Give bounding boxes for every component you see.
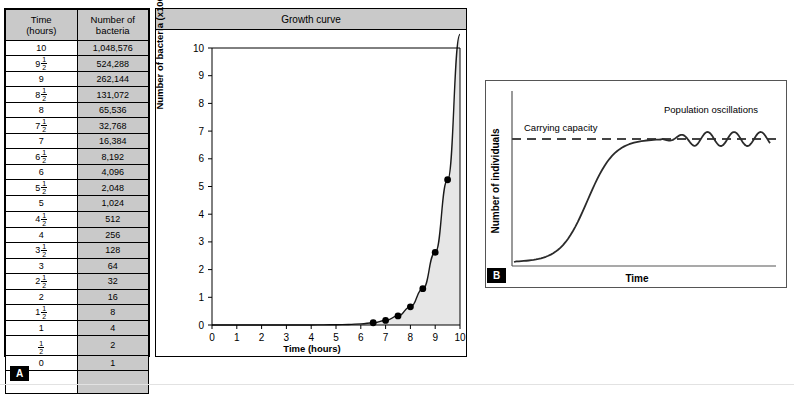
svg-text:2: 2 xyxy=(259,332,265,343)
cell-time: 8 xyxy=(6,103,78,118)
cell-bacteria: 32 xyxy=(77,273,149,289)
table-row: 64,096 xyxy=(6,165,149,180)
cell-bacteria: 262,144 xyxy=(77,72,149,87)
svg-text:1: 1 xyxy=(198,292,204,303)
cell-time: 612 xyxy=(6,149,78,165)
table-row: 412512 xyxy=(6,211,149,227)
cell-time: 3 xyxy=(6,258,78,273)
table-row: 6128,192 xyxy=(6,149,149,165)
cell-bacteria: 1,048,576 xyxy=(77,41,149,56)
cell-bacteria: 128 xyxy=(77,242,149,258)
svg-text:5: 5 xyxy=(198,181,204,192)
svg-text:6: 6 xyxy=(198,153,204,164)
table-row: 71232,768 xyxy=(6,118,149,134)
svg-text:4: 4 xyxy=(198,209,204,220)
table-row: 9262,144 xyxy=(6,72,149,87)
cell-time: 7 xyxy=(6,134,78,149)
cell-bacteria: 64 xyxy=(77,258,149,273)
cell-time: 512 xyxy=(6,180,78,196)
table-row: 5122,048 xyxy=(6,180,149,196)
table-row: 51,024 xyxy=(6,196,149,211)
svg-text:0: 0 xyxy=(209,332,215,343)
svg-text:10: 10 xyxy=(454,332,466,343)
table-row: 912524,288 xyxy=(6,56,149,72)
table-row: 216 xyxy=(6,289,149,304)
svg-text:1: 1 xyxy=(234,332,240,343)
table-row: 364 xyxy=(6,258,149,273)
table-row: 312128 xyxy=(6,242,149,258)
table-row: 122 xyxy=(6,335,149,355)
cell-bacteria: 256 xyxy=(77,227,149,242)
table-row: 21232 xyxy=(6,273,149,289)
svg-text:2: 2 xyxy=(198,264,204,275)
bacteria-growth-table: Time (hours) Number of bacteria 101,048,… xyxy=(4,8,150,357)
column-header-time: Time (hours) xyxy=(6,10,78,41)
cell-time: 4 xyxy=(6,227,78,242)
cell-time: 412 xyxy=(6,211,78,227)
growth-curve-chart: Number of bacteria (x100,000) Time (hour… xyxy=(155,30,467,357)
cell-bacteria: 8,192 xyxy=(77,149,149,165)
bottom-divider xyxy=(0,384,794,385)
growth-curve-svg: 012345678910012345678910 xyxy=(156,30,468,357)
cell-time: 10 xyxy=(6,41,78,56)
cell-bacteria: 65,536 xyxy=(77,103,149,118)
panel-letter-b: B xyxy=(487,268,506,283)
cell-time: 12 xyxy=(6,335,78,355)
table-row: 101,048,576 xyxy=(6,41,149,56)
cell-bacteria: 16 xyxy=(77,289,149,304)
cell-time: 912 xyxy=(6,56,78,72)
cell-bacteria: 131,072 xyxy=(77,87,149,103)
table-row: 4256 xyxy=(6,227,149,242)
cell-time: 5 xyxy=(6,196,78,211)
table: Time (hours) Number of bacteria 101,048,… xyxy=(5,9,149,394)
cell-bacteria: 2 xyxy=(77,335,149,355)
cell-time: 712 xyxy=(6,118,78,134)
svg-text:7: 7 xyxy=(383,332,389,343)
chart-title: Growth curve xyxy=(281,14,340,25)
svg-text:3: 3 xyxy=(284,332,290,343)
cell-time: 9 xyxy=(6,72,78,87)
cell-time: 2 xyxy=(6,289,78,304)
panel-b: Number of individuals Time Carrying capa… xyxy=(485,80,787,288)
table-row: 1128 xyxy=(6,304,149,320)
logistic-curve-svg xyxy=(486,81,788,289)
cell-bacteria: 16,384 xyxy=(77,134,149,149)
table-row: 865,536 xyxy=(6,103,149,118)
svg-text:0: 0 xyxy=(198,320,204,331)
svg-text:5: 5 xyxy=(333,332,339,343)
cell-bacteria: 8 xyxy=(77,304,149,320)
cell-time: 1 xyxy=(6,320,78,335)
svg-text:7: 7 xyxy=(198,126,204,137)
panel-letter-a: A xyxy=(10,366,29,381)
svg-text:3: 3 xyxy=(198,236,204,247)
column-header-bacteria: Number of bacteria xyxy=(77,10,149,41)
svg-text:8: 8 xyxy=(408,332,414,343)
cell-bacteria: 512 xyxy=(77,211,149,227)
chart-title-bar: Growth curve xyxy=(155,8,467,30)
cell-time: 312 xyxy=(6,242,78,258)
svg-text:8: 8 xyxy=(198,98,204,109)
cell-blank xyxy=(77,371,149,394)
table-row: 14 xyxy=(6,320,149,335)
svg-text:9: 9 xyxy=(432,332,438,343)
cell-bacteria: 1 xyxy=(77,355,149,370)
cell-bacteria: 32,768 xyxy=(77,118,149,134)
cell-bacteria: 2,048 xyxy=(77,180,149,196)
cell-time: 812 xyxy=(6,87,78,103)
svg-text:4: 4 xyxy=(308,332,314,343)
table-header-row: Time (hours) Number of bacteria xyxy=(6,10,149,41)
cell-time: 6 xyxy=(6,165,78,180)
cell-bacteria: 4,096 xyxy=(77,165,149,180)
cell-time: 212 xyxy=(6,273,78,289)
svg-text:6: 6 xyxy=(358,332,364,343)
table-row: 812131,072 xyxy=(6,87,149,103)
table-row: 716,384 xyxy=(6,134,149,149)
cell-time: 112 xyxy=(6,304,78,320)
cell-bacteria: 4 xyxy=(77,320,149,335)
panel-a: Time (hours) Number of bacteria 101,048,… xyxy=(0,0,471,386)
cell-bacteria: 1,024 xyxy=(77,196,149,211)
svg-text:10: 10 xyxy=(193,43,205,54)
table-body: 101,048,576912524,2889262,144812131,0728… xyxy=(6,41,149,394)
cell-bacteria: 524,288 xyxy=(77,56,149,72)
svg-text:9: 9 xyxy=(198,70,204,81)
